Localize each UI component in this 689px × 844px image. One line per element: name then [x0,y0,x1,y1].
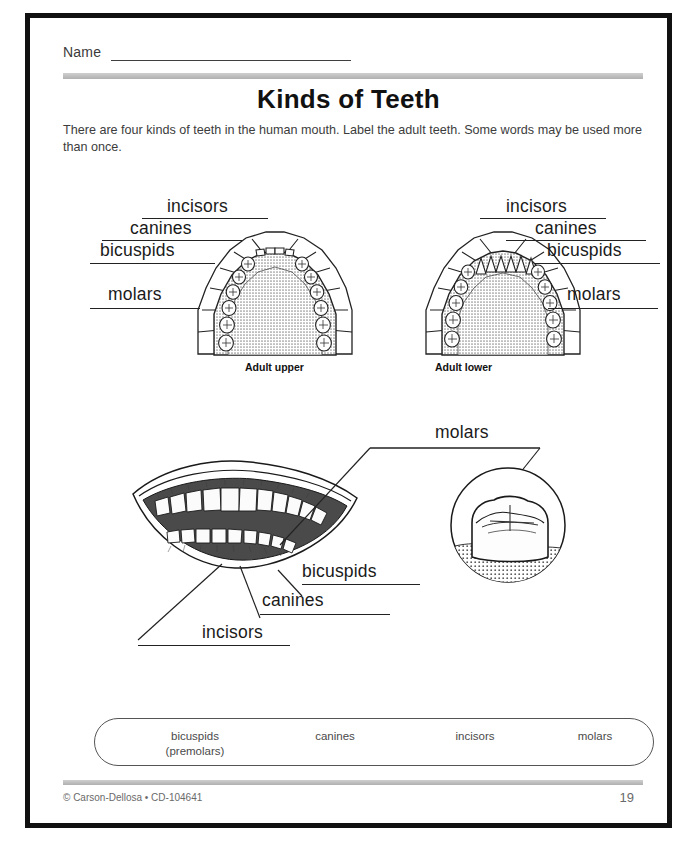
upper-label-canines: canines [130,218,192,239]
lower-label-bicuspids: bicuspids [547,240,622,261]
upper-label-incisors: incisors [167,196,228,217]
mouth-label-bicuspids: bicuspids [302,561,377,582]
footer-divider-bar [63,780,643,785]
worksheet-page: Name Kinds of Teeth There are four kinds… [0,0,689,844]
mouth-label-incisors: incisors [202,622,263,643]
mouth-label-molars: molars [435,422,489,443]
word-bank-bicuspids-line2: (premolars) [166,745,225,757]
upper-label-molars: molars [108,284,162,305]
open-mouth-illustration [125,458,365,578]
lower-label-molars: molars [567,284,621,305]
lower-label-incisors: incisors [506,196,567,217]
lower-label-canines: canines [535,218,597,239]
mouth-leader-canines [260,614,390,615]
adult-upper-diagram [180,214,370,359]
lower-leader-molars [548,308,658,309]
instructions-text: There are four kinds of teeth in the hum… [63,122,648,156]
lower-leader-bicuspids [535,263,660,264]
word-bank: bicuspids (premolars) canines incisors m… [94,718,654,766]
page-title: Kinds of Teeth [30,84,667,115]
molar-closeup-diagram [438,465,578,585]
molar-closeup-illustration [438,465,578,585]
mouth-leader-bicuspids [302,584,420,585]
page-content: Name Kinds of Teeth There are four kinds… [30,18,667,823]
word-bank-item-incisors[interactable]: incisors [415,729,535,744]
mouth-label-canines: canines [262,590,324,611]
mouth-leader-incisors [138,645,290,646]
name-write-line[interactable] [111,60,351,61]
page-number: 19 [620,790,634,805]
adult-lower-caption: Adult lower [435,361,492,373]
upper-leader-molars [90,308,200,309]
adult-upper-caption: Adult upper [245,361,304,373]
open-mouth-diagram [125,458,365,578]
upper-label-bicuspids: bicuspids [100,240,175,261]
word-bank-item-bicuspids[interactable]: bicuspids (premolars) [135,729,255,759]
adult-upper-arch-illustration [180,214,370,359]
page-frame: Name Kinds of Teeth There are four kinds… [25,13,672,828]
name-field-row: Name [63,44,353,66]
copyright-credit: © Carson-Dellosa • CD-104641 [63,792,202,803]
word-bank-bicuspids-line1: bicuspids [171,730,219,742]
word-bank-item-canines[interactable]: canines [275,729,395,744]
word-bank-item-molars[interactable]: molars [535,729,655,744]
header-divider-bar [63,73,643,79]
name-label: Name [63,44,101,60]
upper-leader-bicuspids [90,263,215,264]
